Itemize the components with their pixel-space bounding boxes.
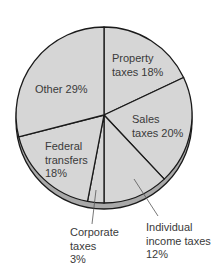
label-line: Property (112, 52, 154, 64)
label-line: 12% (146, 248, 168, 260)
label-line: taxes (70, 240, 97, 252)
label-line: Federal (45, 140, 82, 152)
label-line: 3% (70, 253, 86, 265)
label-line: Sales (132, 113, 160, 125)
label-line: income taxes (146, 235, 211, 247)
label-corporate-taxes: Corporatetaxes3% (70, 226, 119, 265)
pie-chart: Propertytaxes 18%Salestaxes 20%Individua… (0, 0, 220, 279)
label-line: Individual (146, 221, 192, 233)
label-line: taxes 18% (112, 66, 164, 78)
label-line: transfers (45, 154, 88, 166)
label-line: 18% (45, 167, 67, 179)
label-line: taxes 20% (132, 127, 184, 139)
pie-slices (16, 27, 192, 203)
label-line: Corporate (70, 226, 119, 238)
label-other: Other 29% (35, 83, 88, 95)
label-individual-income-taxes: Individualincome taxes12% (146, 221, 211, 260)
label-line: Other 29% (35, 83, 88, 95)
